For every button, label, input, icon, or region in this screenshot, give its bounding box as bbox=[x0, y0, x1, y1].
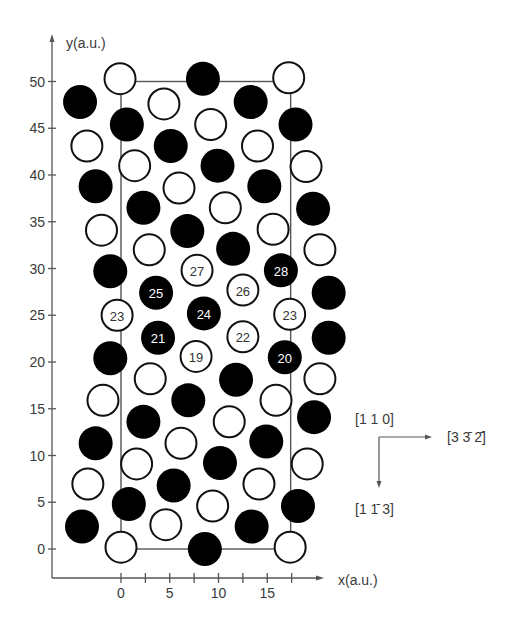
legend-horizontal-direction: [3 3̄ 2̄] bbox=[447, 429, 486, 445]
filled-atom: 20 bbox=[268, 340, 302, 374]
open-atom bbox=[87, 385, 118, 416]
filled-atom bbox=[63, 85, 97, 119]
open-circle-icon bbox=[119, 150, 150, 181]
filled-atom bbox=[219, 363, 253, 397]
atom-label: 23 bbox=[282, 308, 296, 323]
open-atom: 23 bbox=[274, 299, 305, 330]
atom-label: 19 bbox=[189, 350, 203, 365]
atom-label: 26 bbox=[236, 284, 250, 299]
legend-normal-direction: [1 1 0] bbox=[355, 411, 394, 427]
filled-atom bbox=[201, 149, 235, 183]
filled-circle-icon bbox=[112, 487, 146, 521]
y-tick-label: 0 bbox=[37, 541, 45, 557]
open-atom bbox=[135, 363, 166, 394]
open-atom bbox=[214, 406, 245, 437]
open-atom bbox=[273, 62, 304, 93]
open-atom bbox=[291, 151, 322, 182]
y-tick-label: 35 bbox=[29, 214, 45, 230]
filled-atom bbox=[126, 191, 160, 225]
filled-circle-icon bbox=[170, 214, 204, 248]
open-atom bbox=[304, 234, 335, 265]
open-atom bbox=[150, 509, 181, 540]
open-atom: 19 bbox=[181, 341, 212, 372]
filled-circle-icon bbox=[219, 363, 253, 397]
open-atom bbox=[243, 469, 274, 500]
filled-circle-icon bbox=[93, 341, 127, 375]
orientation-legend: [1 1 0] [3 3̄ 2̄] [1 1̄ 3] bbox=[355, 411, 486, 517]
y-tick-label: 40 bbox=[29, 167, 45, 183]
atom-label: 20 bbox=[278, 351, 292, 366]
filled-circle-icon bbox=[157, 468, 191, 502]
open-circle-icon bbox=[148, 88, 179, 119]
y-axis-arrow-icon bbox=[50, 34, 55, 42]
open-circle-icon bbox=[197, 490, 228, 521]
open-circle-icon bbox=[71, 131, 102, 162]
open-atom bbox=[121, 448, 152, 479]
filled-atom bbox=[93, 341, 127, 375]
filled-circle-icon bbox=[126, 191, 160, 225]
open-atom bbox=[148, 88, 179, 119]
open-atom bbox=[164, 173, 195, 204]
open-atom bbox=[72, 469, 103, 500]
open-atom bbox=[86, 215, 117, 246]
open-circle-icon bbox=[121, 448, 152, 479]
filled-atom bbox=[110, 108, 144, 142]
x-axis-label: x(a.u.) bbox=[338, 572, 378, 588]
open-atom bbox=[165, 428, 196, 459]
filled-atom bbox=[203, 446, 237, 480]
open-atom bbox=[304, 363, 335, 394]
filled-circle-icon bbox=[110, 108, 144, 142]
atom-label: 23 bbox=[110, 309, 124, 324]
atom-label: 24 bbox=[197, 307, 211, 322]
open-circle-icon bbox=[258, 214, 289, 245]
x-axis-ticks: 051015 bbox=[117, 573, 292, 601]
filled-atom bbox=[247, 169, 281, 203]
filled-atom bbox=[281, 489, 315, 523]
filled-circle-icon bbox=[188, 532, 222, 566]
open-atom bbox=[106, 532, 137, 563]
open-circle-icon bbox=[72, 469, 103, 500]
x-axis-arrow-icon bbox=[316, 576, 324, 581]
open-atom bbox=[292, 448, 323, 479]
filled-atom bbox=[79, 169, 113, 203]
y-tick-label: 25 bbox=[29, 307, 45, 323]
x-tick-label: 15 bbox=[259, 585, 275, 601]
atomic-structure-figure: 2728252623242321221920 05101520253035404… bbox=[0, 0, 519, 626]
filled-circle-icon bbox=[312, 321, 346, 355]
filled-atom bbox=[234, 85, 268, 119]
y-tick-label: 10 bbox=[29, 448, 45, 464]
filled-atom bbox=[186, 62, 220, 96]
open-circle-icon bbox=[273, 62, 304, 93]
open-atom: 27 bbox=[182, 255, 213, 286]
filled-atom: 25 bbox=[139, 276, 173, 310]
open-circle-icon bbox=[275, 532, 306, 563]
y-axis-label: y(a.u.) bbox=[66, 35, 106, 51]
open-atom bbox=[275, 532, 306, 563]
filled-circle-icon bbox=[154, 129, 188, 163]
filled-circle-icon bbox=[247, 169, 281, 203]
open-circle-icon bbox=[165, 428, 196, 459]
atom-label: 27 bbox=[190, 264, 204, 279]
filled-atom bbox=[154, 129, 188, 163]
filled-circle-icon bbox=[281, 489, 315, 523]
open-circle-icon bbox=[292, 448, 323, 479]
filled-circle-icon bbox=[126, 405, 160, 439]
filled-circle-icon bbox=[234, 85, 268, 119]
filled-circle-icon bbox=[79, 426, 113, 460]
open-atom bbox=[242, 131, 273, 162]
filled-atom bbox=[170, 214, 204, 248]
open-circle-icon bbox=[105, 63, 136, 94]
open-circle-icon bbox=[135, 363, 166, 394]
open-atom bbox=[210, 192, 241, 223]
filled-atom bbox=[112, 487, 146, 521]
open-atom: 22 bbox=[227, 321, 258, 352]
filled-circle-icon bbox=[203, 446, 237, 480]
filled-atom bbox=[216, 232, 250, 266]
filled-circle-icon bbox=[65, 510, 99, 544]
filled-circle-icon bbox=[279, 108, 313, 142]
open-atom bbox=[71, 131, 102, 162]
open-circle-icon bbox=[243, 469, 274, 500]
open-atom: 26 bbox=[227, 275, 258, 306]
open-circle-icon bbox=[150, 509, 181, 540]
filled-atom bbox=[312, 321, 346, 355]
